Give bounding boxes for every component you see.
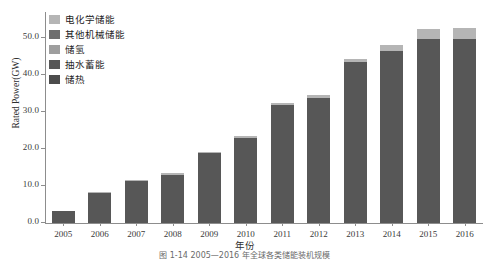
bar-group[interactable] bbox=[125, 12, 148, 223]
x-tick-mark bbox=[100, 223, 101, 226]
bar-segment[interactable] bbox=[125, 180, 148, 181]
y-tick-label: 10.0 bbox=[23, 179, 39, 189]
legend-label: 抽水蓄能 bbox=[65, 59, 105, 70]
x-tick-mark bbox=[282, 223, 283, 226]
x-tick-mark bbox=[63, 223, 64, 226]
legend-swatch-icon bbox=[49, 45, 60, 54]
y-tick-label: 20.0 bbox=[23, 142, 39, 152]
bar-segment[interactable] bbox=[380, 45, 403, 51]
bar-segment[interactable] bbox=[344, 62, 367, 223]
chart-figure: Rated Power(GW) 0.010.020.030.040.050.0 … bbox=[0, 0, 489, 262]
bar-segment[interactable] bbox=[344, 59, 367, 63]
legend-label: 其他机械储能 bbox=[65, 29, 125, 40]
bar-group[interactable] bbox=[344, 12, 367, 223]
bar-group[interactable] bbox=[271, 12, 294, 223]
bar-segment[interactable] bbox=[125, 181, 148, 223]
x-tick-mark bbox=[173, 223, 174, 226]
bar-group[interactable] bbox=[161, 12, 184, 223]
chart-legend: 电化学储能其他机械储能储氢抽水蓄能储热 bbox=[49, 13, 125, 86]
legend-item[interactable]: 储氢 bbox=[49, 43, 125, 56]
figure-caption: 图 1-14 2005—2016 年全球各类储能装机规模 bbox=[0, 251, 489, 261]
bar-segment[interactable] bbox=[88, 192, 111, 193]
bar-segment[interactable] bbox=[88, 193, 111, 223]
bar-group[interactable] bbox=[380, 12, 403, 223]
x-tick-mark bbox=[465, 223, 466, 226]
legend-swatch-icon bbox=[49, 75, 60, 84]
bar-segment[interactable] bbox=[271, 103, 294, 105]
x-tick-mark bbox=[319, 223, 320, 226]
legend-swatch-icon bbox=[49, 30, 60, 39]
y-tick-label: 50.0 bbox=[23, 31, 39, 41]
legend-item[interactable]: 抽水蓄能 bbox=[49, 58, 125, 71]
bar-segment[interactable] bbox=[198, 153, 221, 223]
bar-group[interactable] bbox=[198, 12, 221, 223]
x-tick-mark bbox=[355, 223, 356, 226]
y-axis-title: Rated Power(GW) bbox=[11, 33, 21, 153]
y-tick-label: 0.0 bbox=[27, 216, 39, 226]
y-tick-label: 30.0 bbox=[23, 105, 39, 115]
bar-segment[interactable] bbox=[52, 211, 75, 223]
x-axis-line bbox=[45, 223, 483, 224]
legend-label: 电化学储能 bbox=[65, 14, 115, 25]
x-tick-mark bbox=[392, 223, 393, 226]
bar-segment[interactable] bbox=[161, 173, 184, 174]
bar-segment[interactable] bbox=[380, 51, 403, 223]
y-tick-label: 40.0 bbox=[23, 68, 39, 78]
legend-label: 储氢 bbox=[65, 44, 85, 55]
bar-group[interactable] bbox=[234, 12, 257, 223]
bar-segment[interactable] bbox=[307, 98, 330, 223]
legend-item[interactable]: 其他机械储能 bbox=[49, 28, 125, 41]
bar-group[interactable] bbox=[307, 12, 330, 223]
bar-group[interactable] bbox=[417, 12, 440, 223]
bar-segment[interactable] bbox=[161, 175, 184, 223]
legend-swatch-icon bbox=[49, 15, 60, 24]
bar-group[interactable] bbox=[453, 12, 476, 223]
bar-segment[interactable] bbox=[271, 105, 294, 223]
bar-segment[interactable] bbox=[234, 138, 257, 224]
legend-swatch-icon bbox=[49, 60, 60, 69]
x-tick-mark bbox=[428, 223, 429, 226]
legend-item[interactable]: 储热 bbox=[49, 73, 125, 86]
bar-segment[interactable] bbox=[198, 152, 221, 153]
x-tick-mark bbox=[209, 223, 210, 226]
legend-item[interactable]: 电化学储能 bbox=[49, 13, 125, 26]
x-tick-mark bbox=[136, 223, 137, 226]
bar-segment[interactable] bbox=[307, 95, 330, 98]
bar-segment[interactable] bbox=[417, 39, 440, 223]
bar-segment[interactable] bbox=[453, 39, 476, 223]
legend-label: 储热 bbox=[65, 74, 85, 85]
x-tick-mark bbox=[246, 223, 247, 226]
bar-segment[interactable] bbox=[453, 28, 476, 40]
bar-segment[interactable] bbox=[234, 136, 257, 138]
bar-segment[interactable] bbox=[417, 29, 440, 39]
x-axis-title: 年份 bbox=[0, 238, 489, 252]
